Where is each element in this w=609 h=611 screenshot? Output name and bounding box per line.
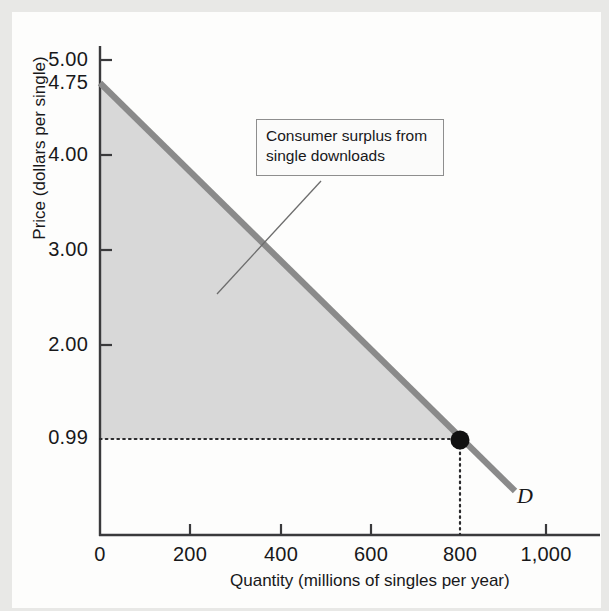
- x-axis-title: Quantity (millions of singles per year): [230, 571, 510, 591]
- y-tick-label-0-99: 0.99: [20, 426, 88, 449]
- callout-line-2: single downloads: [266, 146, 434, 166]
- x-tick-label-600: 600: [341, 543, 401, 566]
- x-axis-ticks: [190, 524, 546, 535]
- callout-line-1: Consumer surplus from: [266, 126, 434, 146]
- x-tick-label-0: 0: [80, 543, 120, 566]
- y-axis-title: Price (dollars per single): [30, 28, 50, 268]
- x-tick-label-1000: 1,000: [513, 543, 579, 566]
- x-tick-label-400: 400: [251, 543, 311, 566]
- x-tick-label-200: 200: [160, 543, 220, 566]
- equilibrium-point-marker: [451, 431, 470, 450]
- plot-canvas: [0, 0, 609, 611]
- x-tick-label-800: 800: [430, 543, 490, 566]
- consumer-surplus-callout-box: Consumer surplus from single downloads: [256, 119, 444, 176]
- demand-curve-label: D: [517, 483, 533, 509]
- y-tick-label-2-00: 2.00: [20, 333, 88, 356]
- economics-figure: 5.00 4.75 4.00 3.00 2.00 0.99 0 200 400 …: [0, 0, 609, 611]
